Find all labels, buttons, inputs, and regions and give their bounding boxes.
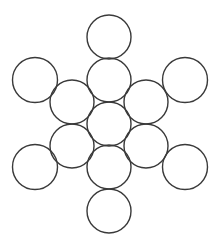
circle-bottom (87, 189, 131, 233)
circle-pattern-diagram (0, 0, 224, 247)
circles-group (13, 15, 208, 233)
circle-upper-right-outer (163, 58, 208, 103)
circle-center-lower (87, 145, 131, 189)
circle-lower-left-outer (13, 145, 58, 190)
circle-top (87, 15, 131, 59)
circle-lower-right-outer (163, 145, 208, 190)
